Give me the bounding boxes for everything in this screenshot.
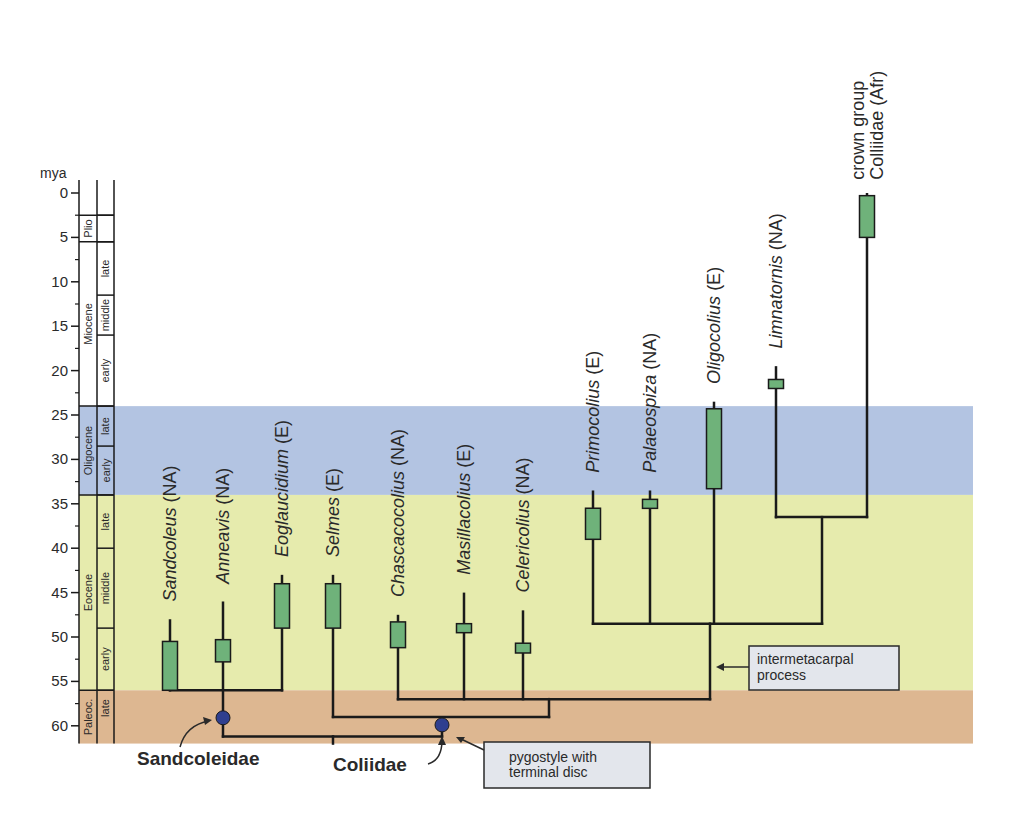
range-bar (216, 640, 231, 662)
taxon-label: Palaeospiza (NA) (640, 333, 660, 473)
epoch-label: Paleoc. (82, 699, 94, 736)
taxon-label: Celericolius (NA) (513, 458, 533, 593)
clade-label-sandcoleidae: Sandcoleidae (137, 748, 260, 769)
taxon-label: Limnatornis (NA) (766, 213, 786, 348)
subepoch-label: late (100, 513, 112, 531)
subepoch-label: early (100, 458, 112, 482)
taxon-label: Eoglaucidium (E) (272, 420, 292, 557)
node-sandcoleidae (216, 711, 230, 725)
axis-tick-label: 50 (51, 628, 68, 645)
subepoch-label: middle (100, 572, 112, 604)
taxon-oligocolius: Oligocolius (E) (704, 267, 724, 489)
taxon-label: Sandcoleus (NA) (160, 465, 180, 601)
taxon-selmes: Selmes (E) (323, 468, 343, 628)
range-bar (516, 643, 531, 653)
taxon-sandcoleus: Sandcoleus (NA) (160, 465, 180, 690)
range-bar (586, 508, 601, 539)
taxon-label: Selmes (E) (323, 468, 343, 557)
axis-unit-label: mya (40, 165, 67, 181)
taxon-label: Masillacolius (E) (454, 444, 474, 575)
axis-tick-label: 30 (51, 450, 68, 467)
crown-label-line2: Colliidae (Afr) (867, 71, 887, 180)
axis-tick-label: 45 (51, 584, 68, 601)
axis-tick-label: 55 (51, 672, 68, 689)
epoch-label: Eocene (82, 574, 94, 611)
node-coliidae (435, 718, 449, 732)
subepoch-label: late (100, 699, 112, 717)
phylogeny-figure: mya051015202530354045505560PlioMioceneOl… (0, 0, 1012, 818)
axis-tick-label: 5 (60, 228, 68, 245)
taxon-primocolius: Primocolius (E) (583, 351, 603, 540)
axis-tick-label: 15 (51, 317, 68, 334)
callout-intermetacarpal-line1: intermetacarpal (757, 651, 854, 667)
range-bar (163, 641, 178, 690)
axis-tick-label: 20 (51, 362, 68, 379)
epoch-label: Plio (82, 219, 94, 237)
subepoch-label: early (100, 647, 112, 671)
callout-pygostyle-line2: terminal disc (509, 764, 588, 780)
callout-intermetacarpal-line2: process (757, 667, 806, 683)
range-bar (457, 624, 472, 633)
axis-tick-label: 35 (51, 495, 68, 512)
clade-label-coliidae: Coliidae (333, 754, 407, 775)
taxon-eoglaucidium: Eoglaucidium (E) (272, 420, 292, 628)
range-bar (769, 379, 784, 388)
subepoch-label: middle (100, 299, 112, 331)
range-bar (275, 584, 290, 628)
epoch-label: Miocene (82, 303, 94, 345)
subepoch-label: early (100, 358, 112, 382)
taxon-crown-group: crown groupColliidae (Afr) (848, 71, 887, 238)
taxon-label: Oligocolius (E) (704, 267, 724, 384)
range-bar (707, 409, 722, 489)
subepoch-label: late (100, 417, 112, 435)
taxon-label: Chascacocolius (NA) (388, 429, 408, 597)
range-bar (860, 196, 875, 238)
crown-label-line1: crown group (848, 81, 868, 180)
taxon-limnatornis: Limnatornis (NA) (766, 213, 786, 388)
callout-pygostyle-line1: pygostyle with (509, 749, 597, 765)
axis-tick-label: 25 (51, 406, 68, 423)
taxon-label: Anneavis (NA) (213, 468, 233, 585)
range-bar (643, 499, 658, 508)
axis-tick-label: 10 (51, 273, 68, 290)
axis-tick-label: 0 (60, 184, 68, 201)
axis-tick-label: 60 (51, 717, 68, 734)
range-bar (391, 622, 406, 648)
axis-tick-label: 40 (51, 539, 68, 556)
range-bar (326, 584, 341, 628)
subepoch-label: late (100, 260, 112, 278)
taxon-label: Primocolius (E) (583, 351, 603, 473)
epoch-label: Oligocene (82, 426, 94, 476)
